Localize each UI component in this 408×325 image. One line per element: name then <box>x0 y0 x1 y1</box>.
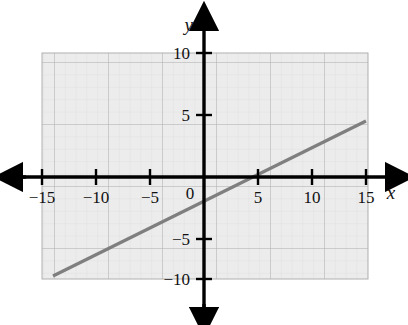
y-tick-label-5: 5 <box>182 106 191 125</box>
graph-figure: −15 −10 −5 5 10 15 0 10 5 −5 −10 y x <box>0 0 408 325</box>
x-tick-label--5: −5 <box>141 188 159 207</box>
y-tick-label--5: −5 <box>172 230 190 249</box>
x-tick-label--15: −15 <box>29 188 56 207</box>
x-axis-label: x <box>386 182 396 203</box>
y-tick-label--10: −10 <box>163 270 190 289</box>
x-tick-label-10: 10 <box>304 188 321 207</box>
y-axis-label: y <box>183 14 194 35</box>
x-tick-label-5: 5 <box>254 188 263 207</box>
x-tick-label--10: −10 <box>83 188 110 207</box>
x-tick-label-15: 15 <box>358 188 375 207</box>
origin-label: 0 <box>186 184 195 203</box>
y-tick-label-10: 10 <box>173 44 190 63</box>
coordinate-plane-svg: −15 −10 −5 5 10 15 0 10 5 −5 −10 y x <box>0 0 408 325</box>
